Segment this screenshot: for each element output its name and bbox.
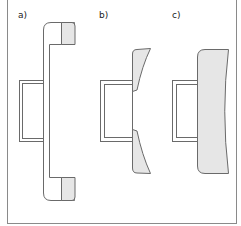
panel-a — [20, 23, 76, 201]
panel-a-top-cap — [62, 23, 76, 45]
panel-b-top-pad — [133, 49, 151, 92]
panel-a-bottom-cap — [62, 178, 76, 201]
panel-c-inner-rect — [177, 85, 198, 138]
panel-a-body — [44, 23, 75, 201]
panel-c-body — [198, 50, 229, 174]
panel-b-outer-rect — [101, 81, 133, 142]
panel-a-inner-rect — [23, 84, 44, 139]
diagram-canvas — [0, 0, 241, 226]
panel-c — [173, 50, 229, 174]
panel-b-inner-rect — [105, 85, 133, 138]
panel-b-bottom-pad — [133, 130, 151, 174]
panel-a-outer-rect — [20, 81, 44, 142]
panel-b — [101, 49, 151, 174]
